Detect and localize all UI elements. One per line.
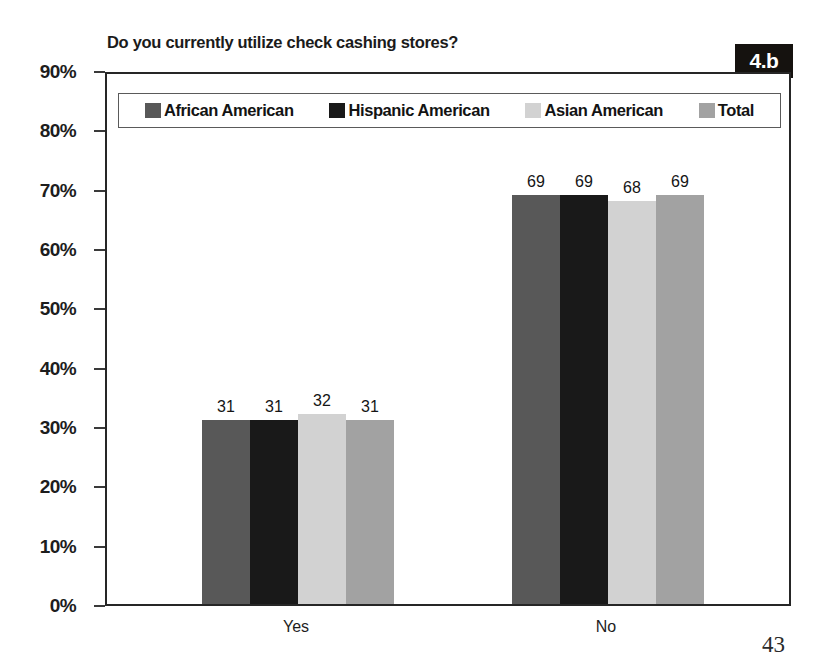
bar	[346, 420, 394, 604]
y-axis-tick-mark	[94, 308, 105, 310]
y-axis-tick-label: 0%	[6, 595, 76, 617]
bar-value-label: 68	[623, 179, 641, 197]
legend-item[interactable]: African American	[145, 101, 294, 120]
bar	[512, 195, 560, 604]
plot-area: African AmericanHispanic AmericanAsian A…	[105, 72, 791, 606]
legend-swatch-icon	[145, 103, 161, 118]
bar-value-label: 31	[361, 398, 379, 416]
y-axis-tick-label: 60%	[6, 239, 76, 261]
y-axis-tick-mark	[94, 486, 105, 488]
chart-legend: African AmericanHispanic AmericanAsian A…	[118, 93, 781, 128]
legend-item-label: Asian American	[544, 101, 663, 120]
bar	[656, 195, 704, 604]
bar-value-label: 31	[265, 398, 283, 416]
figure-page: Do you currently utilize check cashing s…	[0, 0, 828, 671]
legend-swatch-icon	[329, 103, 345, 118]
y-axis-tick-label: 30%	[6, 417, 76, 439]
bar	[298, 414, 346, 604]
bar-value-label: 31	[217, 398, 235, 416]
legend-swatch-icon	[525, 103, 541, 118]
y-axis-tick-mark	[94, 71, 105, 73]
y-axis-tick-mark	[94, 427, 105, 429]
y-axis-tick-mark	[94, 130, 105, 132]
legend-item-label: African American	[164, 101, 294, 120]
y-axis-tick-label: 50%	[6, 298, 76, 320]
bar-value-label: 69	[527, 173, 545, 191]
legend-item-label: Total	[718, 101, 754, 120]
bar	[202, 420, 250, 604]
y-axis-tick-label: 70%	[6, 180, 76, 202]
x-axis-category-label: No	[596, 618, 616, 636]
y-axis-tick-label: 10%	[6, 536, 76, 558]
y-axis-tick-mark	[94, 605, 105, 607]
y-axis-tick-label: 90%	[6, 61, 76, 83]
y-axis-tick-mark	[94, 546, 105, 548]
bar-value-label: 32	[313, 392, 331, 410]
y-axis-tick-label: 40%	[6, 358, 76, 380]
y-axis-tick-mark	[94, 368, 105, 370]
legend-item-label: Hispanic American	[348, 101, 489, 120]
bar-value-label: 69	[671, 173, 689, 191]
page-number: 43	[762, 632, 785, 658]
bar	[608, 201, 656, 604]
page-title: Do you currently utilize check cashing s…	[107, 33, 458, 52]
legend-item[interactable]: Asian American	[525, 101, 663, 120]
bar-value-label: 69	[575, 173, 593, 191]
y-axis-tick-mark	[94, 249, 105, 251]
y-axis-tick-label: 20%	[6, 476, 76, 498]
x-axis-category-label: Yes	[283, 618, 309, 636]
y-axis-tick-label: 80%	[6, 120, 76, 142]
y-axis-tick-mark	[94, 190, 105, 192]
legend-item[interactable]: Hispanic American	[329, 101, 489, 120]
bar	[250, 420, 298, 604]
legend-swatch-icon	[699, 103, 715, 118]
bar	[560, 195, 608, 604]
legend-item[interactable]: Total	[699, 101, 754, 120]
